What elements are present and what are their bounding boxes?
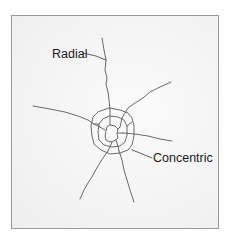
concentric-label: Concentric (153, 152, 213, 165)
concentric-rings (91, 108, 134, 154)
concentric-leader-line (132, 150, 152, 158)
radial-label: Radial (52, 48, 87, 61)
street-pattern-diagram (0, 0, 232, 239)
